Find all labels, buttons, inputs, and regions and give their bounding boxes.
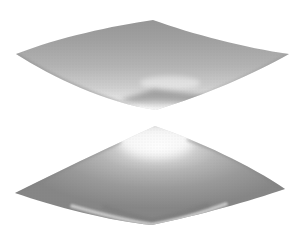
upper-sheet-texture [16, 20, 289, 110]
surface-plot-canvas [0, 0, 304, 246]
figure [0, 0, 304, 246]
upper-sheet-shading [16, 20, 289, 121]
lower-cone-sheet [15, 125, 285, 225]
lower-sheet-shading [15, 125, 285, 225]
lower-sheet-texture [15, 126, 285, 225]
upper-cone-sheet [16, 20, 289, 121]
